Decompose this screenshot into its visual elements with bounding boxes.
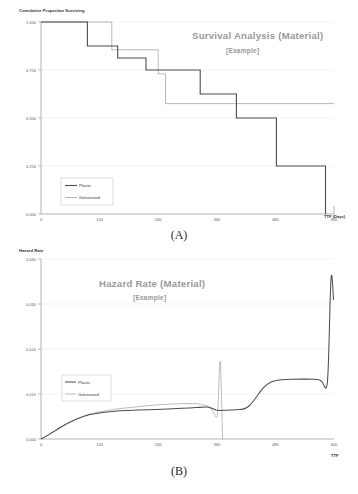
- legend-label-galvanized: Galvanized: [79, 195, 101, 200]
- plot-area-hazard: Hazard Rate Hazard Rate (Material) [Exam…: [0, 245, 358, 463]
- figure-hazard-rate: Hazard Rate Hazard Rate (Material) [Exam…: [0, 245, 358, 494]
- x-tick-label: 600: [331, 442, 338, 447]
- y-tick-label: 0,750: [26, 68, 37, 73]
- gridlines-survival: [41, 22, 334, 166]
- x-tick-label: 600: [331, 217, 338, 222]
- x-tick-label: 480: [272, 442, 279, 447]
- gridlines-hazard: [41, 259, 334, 394]
- series-line-plastic: [41, 275, 334, 439]
- x-tick-label: 240: [155, 217, 162, 222]
- y-tick-label: 0,020: [26, 347, 37, 352]
- figure-survival-analysis: Cumulative Proportion Surviving Survival…: [0, 0, 358, 250]
- x-tick-label: 360: [213, 442, 220, 447]
- legend-label-galvanized: Galvanized: [78, 392, 100, 397]
- y-tick-label: 0,250: [26, 164, 37, 169]
- y-tick-label: 0,010: [26, 392, 37, 397]
- legend-label-plastic: Plastic: [78, 380, 90, 385]
- y-tick-label: 0,000: [26, 437, 37, 442]
- x-tick-label: 120: [96, 217, 103, 222]
- panel-label-a: (A): [0, 228, 358, 243]
- y-tick-label: 0,040: [26, 257, 37, 262]
- survival-chart-svg: 1,000 0,750 0,500 0,250 0,000 0 120 240 …: [0, 0, 358, 228]
- series-line-galvanized: [41, 22, 334, 104]
- x-tick-label: 120: [96, 442, 103, 447]
- legend-hazard[interactable]: Plastic Galvanized: [62, 375, 111, 401]
- x-tick-label: 480: [272, 217, 279, 222]
- plot-area-survival: Cumulative Proportion Surviving Survival…: [0, 0, 358, 228]
- legend-label-plastic: Plastic: [79, 183, 91, 188]
- x-ticks-hazard: 0 120 240 360 480 600: [40, 442, 338, 447]
- x-ticks-survival: 0 120 240 360 480 600: [40, 217, 338, 222]
- y-tick-label: 0,500: [26, 116, 37, 121]
- y-ticks-survival: 1,000 0,750 0,500 0,250 0,000: [26, 20, 41, 217]
- legend-survival[interactable]: Plastic Galvanized: [61, 178, 113, 205]
- x-tick-label: 0: [40, 217, 43, 222]
- y-tick-label: 0,000: [26, 212, 37, 217]
- x-tick-label: 0: [40, 442, 43, 447]
- y-tick-label: 0,030: [26, 302, 37, 307]
- hazard-chart-svg: 0,040 0,030 0,020 0,010 0,000 0 120 240 …: [0, 245, 358, 463]
- panel-label-b: (B): [0, 464, 358, 479]
- y-tick-label: 1,000: [26, 20, 37, 25]
- x-tick-label: 240: [155, 442, 162, 447]
- y-ticks-hazard: 0,040 0,030 0,020 0,010 0,000: [26, 257, 41, 442]
- x-tick-label: 360: [213, 217, 220, 222]
